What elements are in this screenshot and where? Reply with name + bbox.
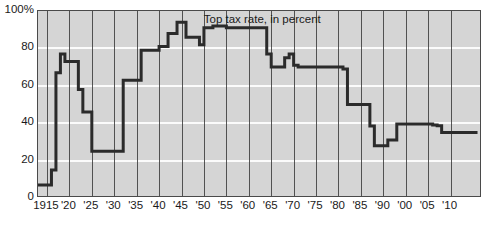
x-tick-label: '60 [240,199,255,211]
x-tick-label: '45 [173,199,188,211]
y-tick-label: 40 [21,116,34,127]
x-tick-label: '10 [442,199,457,211]
chart-title: Top tax rate, in percent [204,13,321,25]
series-line [38,22,478,185]
x-tick-label: '65 [263,199,278,211]
x-tick-label: '30 [106,199,121,211]
x-tick-label: '55 [218,199,233,211]
x-tick-label: '70 [285,199,300,211]
plot-area: Top tax rate, in percent [37,10,481,197]
x-tick-label: '75 [308,199,323,211]
x-tick-label: '05 [420,199,435,211]
x-tick-label: '40 [151,199,166,211]
x-tick-label: '80 [330,199,345,211]
x-tick-label: '20 [61,199,76,211]
x-tick-label: 1915 [33,199,59,211]
x-tick-label: '90 [375,199,390,211]
y-tick-label: 60 [21,79,34,90]
x-tick-label: '35 [128,199,143,211]
y-tick-label: 100% [5,4,34,15]
x-tick-label: '25 [83,199,98,211]
x-tick-label: '50 [195,199,210,211]
tax-rate-step-line [38,11,481,197]
y-tick-label: 20 [21,154,34,165]
x-tick-label: '00 [397,199,412,211]
x-axis-labels: 1915'20'25'30'35'40'45'50'55'60'65'70'75… [0,199,484,221]
top-tax-rate-chart: 100%806040200 Top tax rate, in percent 1… [0,0,484,230]
y-tick-label: 80 [21,41,34,52]
y-axis-labels: 100%806040200 [0,0,34,230]
x-tick-label: '85 [352,199,367,211]
